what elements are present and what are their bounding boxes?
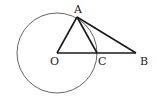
label-a: A bbox=[73, 3, 83, 16]
label-o: O bbox=[50, 55, 59, 68]
segment-oa bbox=[57, 17, 77, 53]
label-b: B bbox=[140, 55, 148, 68]
label-c: C bbox=[98, 55, 106, 68]
segment-ab bbox=[77, 17, 136, 53]
geometry-diagram: A O C B bbox=[0, 0, 156, 97]
